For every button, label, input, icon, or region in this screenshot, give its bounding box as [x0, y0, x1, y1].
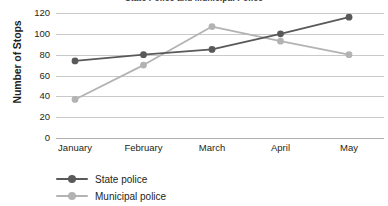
legend-label: Municipal police	[95, 191, 166, 202]
x-tick-label: February	[124, 142, 162, 153]
y-tick-label: 100	[16, 29, 50, 39]
data-point-marker	[72, 96, 79, 103]
series-line	[75, 27, 349, 100]
data-point-marker	[346, 14, 353, 21]
legend-item[interactable]: State police	[56, 172, 166, 186]
y-tick-label: 0	[16, 133, 50, 143]
series-layer	[56, 13, 384, 138]
y-tick-label: 80	[16, 50, 50, 60]
data-point-marker	[72, 58, 79, 65]
legend-label: State police	[95, 174, 147, 185]
data-point-marker	[277, 30, 284, 37]
data-point-marker	[346, 51, 353, 58]
chart-title: State Police and Municipal Police	[0, 0, 388, 7]
legend-item[interactable]: Municipal police	[56, 189, 166, 203]
x-tick-label: May	[340, 142, 358, 153]
data-point-marker	[277, 38, 284, 45]
legend-swatch-icon	[56, 173, 88, 185]
x-tick-label: March	[199, 142, 225, 153]
chart-legend: State policeMunicipal police	[56, 172, 166, 203]
plot-area	[56, 13, 384, 138]
data-point-marker	[209, 23, 216, 30]
x-tick-label: January	[58, 142, 92, 153]
data-point-marker	[209, 46, 216, 53]
y-axis-title: Number of Stops	[11, 0, 23, 128]
y-tick-label: 20	[16, 112, 50, 122]
legend-swatch-icon	[56, 190, 88, 202]
data-point-marker	[140, 62, 147, 69]
y-tick-label: 40	[16, 91, 50, 101]
line-chart: State Police and Municipal Police Number…	[0, 0, 388, 206]
gridline	[56, 138, 384, 139]
y-tick-label: 120	[16, 8, 50, 18]
data-point-marker	[140, 51, 147, 58]
x-tick-label: April	[271, 142, 290, 153]
y-tick-label: 60	[16, 71, 50, 81]
